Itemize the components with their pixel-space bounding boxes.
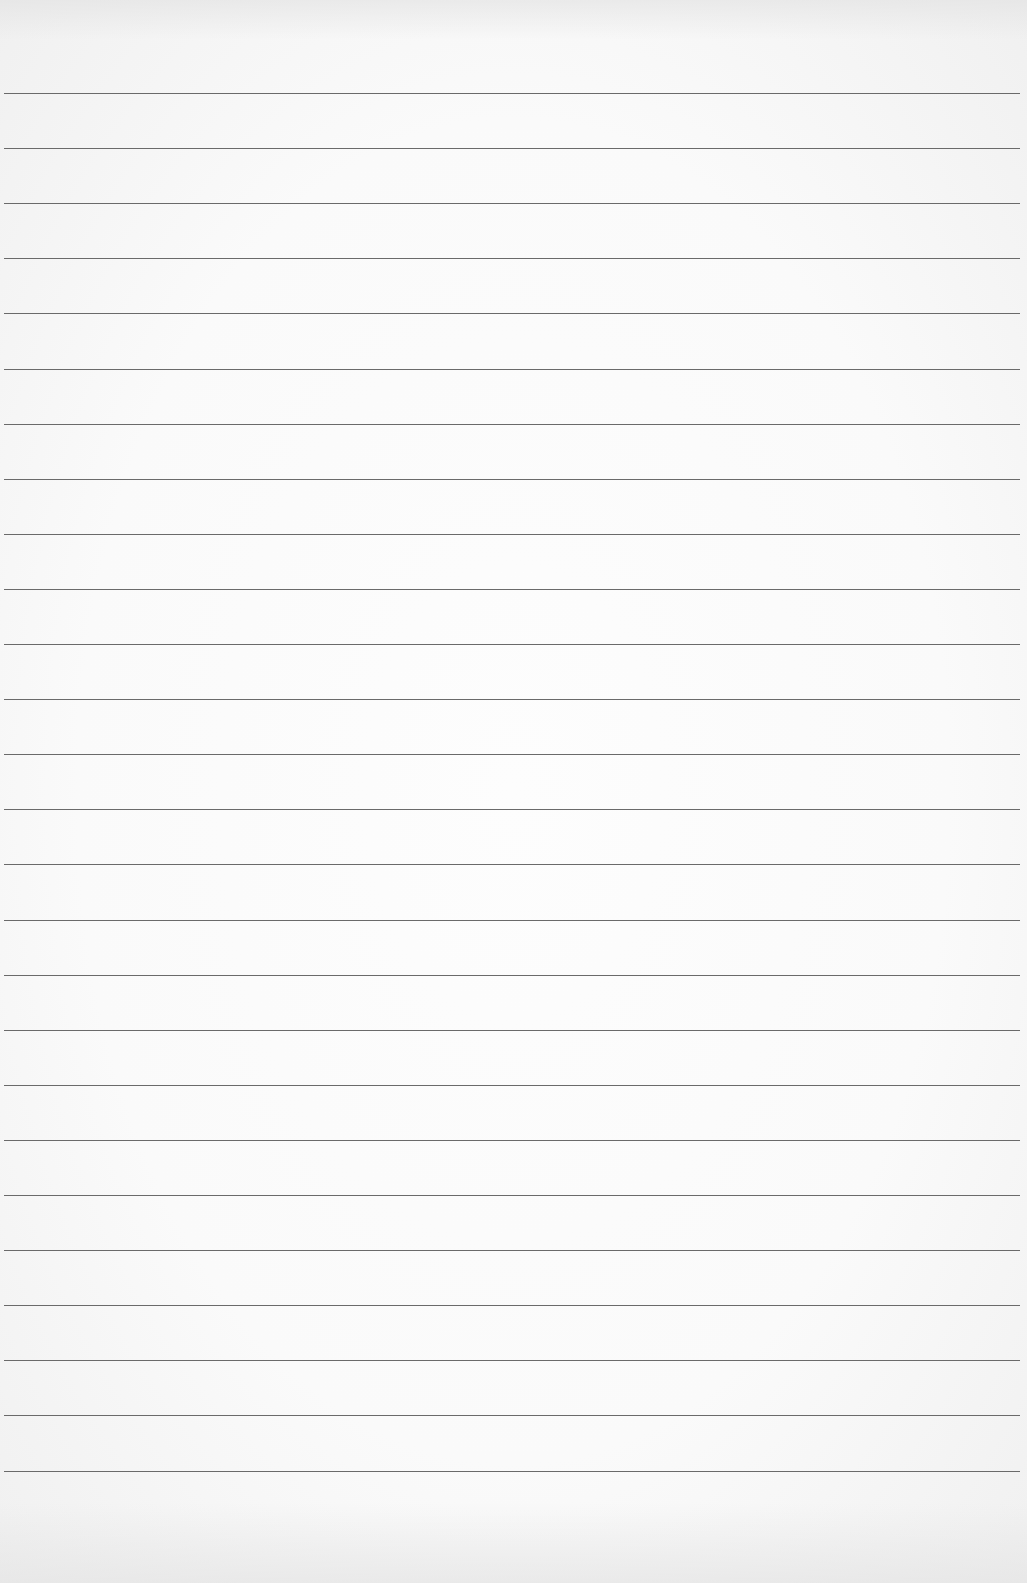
ruled-line <box>4 975 1020 976</box>
ruled-line <box>4 534 1020 535</box>
ruled-line <box>4 148 1020 149</box>
ruled-line <box>4 1305 1020 1306</box>
ruled-line <box>4 864 1020 865</box>
ruled-line <box>4 754 1020 755</box>
ruled-line <box>4 1415 1020 1416</box>
ruled-line <box>4 93 1020 94</box>
ruled-line <box>4 258 1020 259</box>
ruled-line <box>4 809 1020 810</box>
ruled-line <box>4 1250 1020 1251</box>
ruled-line <box>4 644 1020 645</box>
ruled-line <box>4 1085 1020 1086</box>
ruled-line <box>4 1471 1020 1472</box>
ruled-line <box>4 920 1020 921</box>
ruled-line <box>4 313 1020 314</box>
ruled-line <box>4 369 1020 370</box>
ruled-line <box>4 203 1020 204</box>
ruled-paper-sheet <box>0 0 1027 1583</box>
ruled-line <box>4 424 1020 425</box>
ruled-line <box>4 699 1020 700</box>
ruled-line <box>4 1140 1020 1141</box>
ruled-line <box>4 1195 1020 1196</box>
ruled-line <box>4 1030 1020 1031</box>
ruled-line <box>4 589 1020 590</box>
ruled-line <box>4 479 1020 480</box>
ruled-line <box>4 1360 1020 1361</box>
